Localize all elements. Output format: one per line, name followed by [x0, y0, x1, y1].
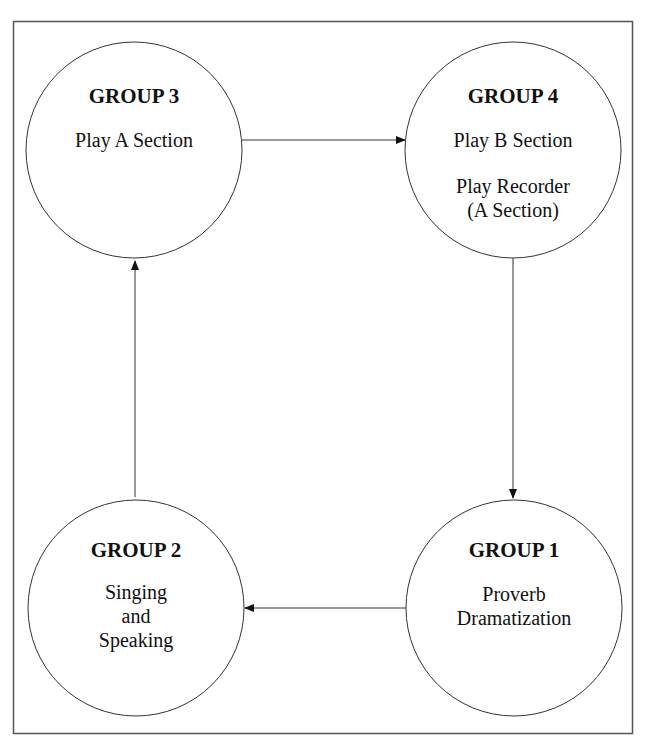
node-line: Proverb — [406, 582, 622, 606]
node-line: and — [28, 604, 244, 628]
node-group2: GROUP 2 Singing and Speaking — [28, 500, 244, 716]
node-line: (A Section) — [405, 198, 621, 222]
node-text: Play B Section Play Recorder (A Section) — [405, 128, 621, 222]
node-line: Singing — [28, 580, 244, 604]
node-title: GROUP 2 — [28, 538, 244, 563]
node-group3: GROUP 3 Play A Section — [26, 42, 242, 258]
node-line: Play A Section — [26, 128, 242, 152]
node-title: GROUP 1 — [406, 538, 622, 563]
node-group4: GROUP 4 Play B Section Play Recorder (A … — [405, 42, 621, 258]
node-title: GROUP 3 — [26, 84, 242, 109]
node-line: Speaking — [28, 628, 244, 652]
node-line: Play B Section — [405, 128, 621, 152]
node-title: GROUP 4 — [405, 84, 621, 109]
node-group1: GROUP 1 Proverb Dramatization — [406, 500, 622, 716]
node-text: Proverb Dramatization — [406, 582, 622, 630]
node-text: Play A Section — [26, 128, 242, 152]
node-line: Play Recorder — [405, 174, 621, 198]
node-text: Singing and Speaking — [28, 580, 244, 652]
node-line: Dramatization — [406, 606, 622, 630]
